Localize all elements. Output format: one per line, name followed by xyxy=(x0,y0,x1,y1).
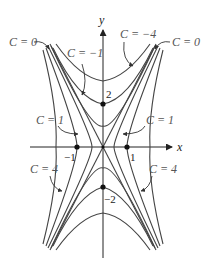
tick-label-x-neg1: −1 xyxy=(64,151,76,163)
tick-label-y-pos2: 2 xyxy=(106,88,112,100)
point-1-0 xyxy=(124,144,129,149)
point-0-2 xyxy=(100,101,105,106)
tick-label-y-neg2: −2 xyxy=(104,193,116,205)
point-origin xyxy=(101,145,104,148)
point-0-neg2 xyxy=(100,184,105,189)
callout-arrow xyxy=(141,176,152,191)
label-c1-right: C = 1 xyxy=(146,113,174,127)
label-cneg4: C = −4 xyxy=(120,27,156,41)
callout-arrow xyxy=(82,64,85,95)
label-c4-left: C = 4 xyxy=(30,162,58,176)
y-axis-label: y xyxy=(98,13,105,27)
label-c1-left: C = 1 xyxy=(36,113,64,127)
point-neg1-0 xyxy=(74,144,79,149)
label-c4-right: C = 4 xyxy=(149,162,177,176)
callout-arrow xyxy=(124,42,133,66)
callout-arrow xyxy=(123,126,145,134)
tick-label-x-pos1: 1 xyxy=(130,151,136,163)
label-cneg1: C = −1 xyxy=(67,46,103,60)
callout-arrow xyxy=(50,176,62,191)
label-c0-top-left: C = 0 xyxy=(9,35,37,49)
x-axis-label: x xyxy=(176,140,183,154)
curve-labels: C = 0 C = −1 C = −4 C = 0 C = 1 C = 1 C … xyxy=(9,27,200,191)
label-c0-top-right: C = 0 xyxy=(172,35,200,49)
level-curves-diagram: x y −1 1 2 −2 C = 0 C = −1 C = −4 C = 0 … xyxy=(0,0,208,274)
